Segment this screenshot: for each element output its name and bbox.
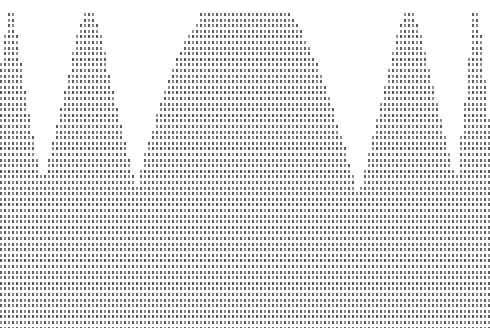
dot-mark [408,63,410,66]
dot-mark [184,125,186,128]
dot-mark [416,63,418,66]
dot-mark [448,287,450,290]
dot-mark [176,226,178,229]
dot-mark [456,209,458,212]
dot-mark [76,63,78,66]
dot-mark [416,97,418,100]
dot-mark [380,164,382,167]
dot-mark [0,276,2,279]
dot-mark [92,147,94,150]
dot-mark [192,125,194,128]
dot-mark [228,299,230,302]
dot-mark [448,248,450,251]
dot-mark [476,52,478,55]
dot-mark [256,220,258,223]
dot-mark [28,164,30,167]
dot-mark [448,237,450,240]
dot-mark [232,153,234,156]
dot-mark [216,304,218,307]
dot-mark [224,147,226,150]
dot-mark [52,304,54,307]
dot-mark [188,69,190,72]
dot-mark [168,293,170,296]
dot-mark [440,265,442,268]
dot-mark [160,237,162,240]
dot-mark [8,276,10,279]
dot-mark [444,259,446,262]
dot-mark [316,254,318,257]
dot-mark [464,164,466,167]
dot-mark [260,321,262,324]
dot-mark [332,315,334,318]
dot-mark [472,271,474,274]
dot-mark [296,198,298,201]
dot-mark [76,293,78,296]
dot-mark [468,299,470,302]
dot-mark [280,220,282,223]
dot-mark [404,131,406,134]
dot-mark [484,271,486,274]
dot-mark [472,192,474,195]
dot-mark [272,220,274,223]
dot-mark [288,321,290,324]
dot-mark [280,310,282,313]
dot-mark [268,41,270,44]
dot-mark [164,91,166,94]
dot-mark [216,299,218,302]
dot-mark [0,293,2,296]
dot-mark [80,170,82,173]
dot-mark [168,220,170,223]
dot-mark [240,58,242,61]
dot-mark [324,159,326,162]
dot-mark [80,24,82,27]
dot-mark [388,226,390,229]
dot-mark [256,164,258,167]
dot-mark [332,114,334,117]
dot-mark [296,243,298,246]
dot-mark [252,170,254,173]
dot-mark [236,209,238,212]
dot-mark [76,58,78,61]
dot-mark [420,103,422,106]
dot-mark [160,315,162,318]
dot-mark [480,125,482,128]
dot-mark [84,237,86,240]
dot-mark [444,220,446,223]
chart-canvas [0,0,490,328]
dot-mark [396,63,398,66]
dot-mark [424,91,426,94]
dot-mark [0,271,2,274]
dot-mark [480,265,482,268]
dot-mark [92,164,94,167]
dot-mark [328,271,330,274]
dot-mark [416,299,418,302]
dot-mark [364,187,366,190]
dot-mark [240,69,242,72]
dot-mark [260,276,262,279]
dot-mark [0,192,2,195]
dot-mark [472,187,474,190]
dot-mark [320,304,322,307]
dot-mark [388,271,390,274]
dot-mark [316,103,318,106]
dot-mark [480,231,482,234]
dot-mark [292,119,294,122]
dot-mark [112,215,114,218]
dot-mark [360,215,362,218]
dot-mark [468,243,470,246]
dot-mark [184,282,186,285]
dot-mark [16,231,18,234]
dot-mark [160,159,162,162]
dot-mark [384,97,386,100]
dot-mark [236,30,238,33]
dot-mark [468,119,470,122]
dot-mark [480,315,482,318]
dot-mark [384,153,386,156]
dot-mark [92,276,94,279]
dot-mark [128,271,130,274]
dot-mark [228,276,230,279]
dot-mark [0,170,2,173]
dot-mark [36,181,38,184]
dot-mark [64,310,66,313]
dot-mark [184,164,186,167]
